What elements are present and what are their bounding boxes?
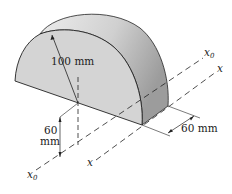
axis-label-x-right: x: [217, 62, 223, 74]
axis-label-x0-right: x0: [204, 46, 215, 60]
height-extension-line: [60, 103, 78, 117]
depth-extension-2: [168, 106, 200, 118]
depth-arrow-1: [168, 129, 173, 133]
depth-extension-1: [142, 125, 170, 136]
semicylinder-diagram: 100 mm 60 mm 60 mm x0 x x x0: [0, 0, 232, 194]
radius-label: 100 mm: [51, 55, 94, 67]
height-label-unit: mm: [40, 135, 60, 147]
height-arrow-top: [59, 117, 62, 122]
axis-label-x-bottom: x: [87, 156, 93, 168]
depth-label: 60 mm: [181, 122, 218, 134]
depth-arrow-2: [190, 116, 195, 121]
height-arrow-bottom: [59, 152, 62, 157]
